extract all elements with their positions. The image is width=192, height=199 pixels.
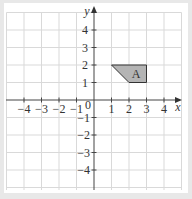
x-tick-label: −3 <box>35 102 48 116</box>
y-tick-label: 2 <box>82 58 88 72</box>
x-tick-label: 1 <box>109 102 115 116</box>
y-tick-label: 1 <box>82 76 88 90</box>
y-tick-label: 4 <box>82 23 88 37</box>
y-axis-arrow-icon <box>91 6 97 13</box>
x-tick-label: −4 <box>18 102 31 116</box>
x-tick-label: 3 <box>144 102 150 116</box>
x-tick-label: 4 <box>161 102 167 116</box>
x-axis-label: x <box>174 100 181 114</box>
y-tick-label: −1 <box>77 111 90 125</box>
axes <box>6 12 176 190</box>
y-tick-label: −2 <box>77 128 90 142</box>
y-tick-label: −4 <box>77 163 90 177</box>
shape-a <box>112 65 147 83</box>
y-tick-label: −3 <box>77 146 90 160</box>
shape-a-label: A <box>132 67 141 81</box>
y-tick-label: 3 <box>82 41 88 55</box>
y-axis-label: y <box>83 4 90 18</box>
x-tick-label: −2 <box>53 102 66 116</box>
x-tick-label: 2 <box>126 102 132 116</box>
coordinate-plane: A −4 −3 −2 −1 1 2 3 4 0 4 3 2 1 −1 −2 −3… <box>0 0 192 199</box>
